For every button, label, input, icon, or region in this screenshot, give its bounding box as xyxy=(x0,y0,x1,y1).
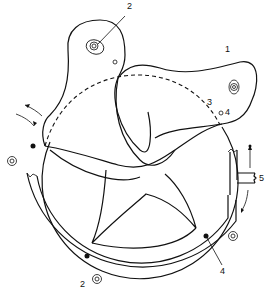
bolt-left xyxy=(8,157,17,166)
dot-right xyxy=(204,234,209,239)
label-2-bottom: 2 xyxy=(80,280,85,289)
label-5: 5 xyxy=(259,174,264,183)
rotation-arrows-left xyxy=(16,104,42,126)
vane-1-body xyxy=(118,62,257,138)
rotor-dashed-arc xyxy=(45,75,220,146)
housing-inner-arc xyxy=(37,176,228,263)
mechanism-drawing xyxy=(0,0,271,292)
blade-curve-e xyxy=(92,228,196,248)
housing-break-left xyxy=(27,173,37,177)
port-5 xyxy=(237,173,256,183)
dot-bottom xyxy=(85,254,90,259)
label-1: 1 xyxy=(225,45,230,54)
label-4-bottom: 4 xyxy=(220,267,225,276)
bolt-right-bottom xyxy=(229,232,238,241)
housing-right-upper xyxy=(230,150,237,195)
dot-left xyxy=(31,144,36,149)
hole-small-4 xyxy=(219,111,223,115)
hole-small-top xyxy=(113,60,117,64)
blade-curve-d xyxy=(92,170,196,243)
bolt-bottom xyxy=(93,275,102,284)
rotation-arrows-right xyxy=(241,145,252,213)
label-4-top: 4 xyxy=(225,108,230,117)
label-3: 3 xyxy=(207,98,212,107)
blade-curve-b xyxy=(45,124,222,167)
label-2-top: 2 xyxy=(127,2,132,11)
blade-curve-c xyxy=(50,150,140,180)
bolt-vane-2 xyxy=(84,37,106,56)
housing-outer-arc xyxy=(27,173,236,267)
diagram-canvas: 1 2 3 4 5 4 2 xyxy=(0,0,271,292)
bolt-vane-1 xyxy=(229,80,239,94)
